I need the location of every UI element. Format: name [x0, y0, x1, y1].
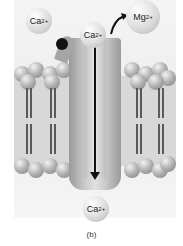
lipid-tail: [30, 124, 32, 154]
lipid-tail: [54, 124, 56, 154]
ion-ca-top-center: Ca2+: [80, 22, 106, 48]
lipid-tail: [162, 88, 164, 118]
phospholipid-head: [160, 156, 176, 172]
ion-mg-top-right: Mg2+: [126, 0, 160, 34]
blocker-molecule: [56, 38, 68, 50]
phospholipid-head: [130, 74, 146, 90]
lipid-tail: [50, 88, 52, 118]
lipid-tail: [50, 124, 52, 154]
phospholipid-head: [44, 74, 60, 90]
ion-ca-top-left: Ca2+: [26, 8, 52, 34]
arrow-head-icon: [90, 172, 100, 180]
lipid-tail: [54, 88, 56, 118]
lipid-tail: [136, 124, 138, 154]
lipid-tail: [30, 88, 32, 118]
lipid-tail: [158, 124, 160, 154]
lipid-tail: [140, 88, 142, 118]
ion-flow-arrow: [94, 46, 96, 174]
phospholipid-head: [20, 74, 36, 90]
lipid-tail: [158, 88, 160, 118]
lipid-tail: [136, 88, 138, 118]
figure-caption: (b): [0, 230, 183, 239]
lipid-tail: [162, 124, 164, 154]
lipid-tail: [26, 88, 28, 118]
lipid-tail: [26, 124, 28, 154]
lipid-tail: [140, 124, 142, 154]
ion-ca-bottom: Ca2+: [83, 196, 109, 222]
